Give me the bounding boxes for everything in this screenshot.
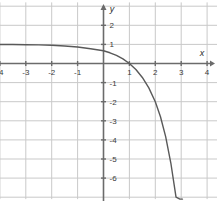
y-tick-label: -1 [110, 79, 118, 88]
y-tick-label: -4 [110, 136, 118, 145]
y-tick-label: 2 [110, 21, 115, 30]
y-tick-label: -3 [110, 117, 118, 126]
y-tick-label: -5 [110, 155, 118, 164]
x-tick-label: -4 [0, 68, 4, 77]
y-axis-label: y [109, 4, 115, 14]
x-tick-label: 4 [205, 68, 210, 77]
x-tick-label: -3 [22, 68, 30, 77]
x-axis-label: x [199, 48, 205, 58]
plot-background [0, 0, 217, 201]
y-tick-label: -6 [110, 174, 118, 183]
graph-plot: -4-3-2-11234 21-1-2-3-4-5-6 x y [0, 0, 217, 201]
y-tick-label: 1 [110, 40, 115, 49]
y-tick-label: -2 [110, 98, 118, 107]
x-tick-label: 2 [153, 68, 158, 77]
x-tick-label: -1 [74, 68, 82, 77]
x-tick-label: 1 [127, 68, 132, 77]
x-tick-label: 3 [179, 68, 184, 77]
x-tick-label: -2 [48, 68, 56, 77]
graph-figure: -4-3-2-11234 21-1-2-3-4-5-6 x y [0, 0, 217, 201]
